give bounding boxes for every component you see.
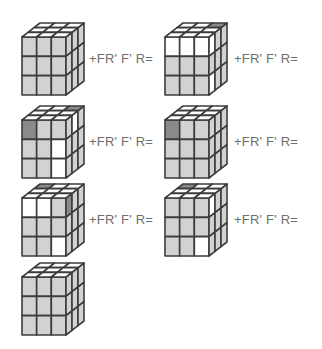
front-sticker	[194, 237, 209, 256]
front-sticker	[194, 217, 209, 236]
cube-svg	[20, 105, 86, 179]
right-sticker	[221, 145, 227, 169]
front-sticker	[165, 37, 180, 56]
right-sticker	[72, 149, 78, 173]
front-sticker	[180, 37, 195, 56]
front-sticker	[37, 316, 52, 335]
front-sticker	[51, 198, 66, 217]
front-sticker	[165, 120, 180, 139]
front-sticker	[37, 37, 52, 56]
front-sticker	[51, 217, 66, 236]
right-sticker	[78, 62, 84, 86]
front-sticker	[22, 120, 37, 139]
front-sticker	[22, 296, 37, 315]
right-sticker	[221, 62, 227, 86]
front-sticker	[37, 120, 52, 139]
front-sticker	[37, 76, 52, 95]
front-sticker	[165, 198, 180, 217]
front-sticker	[165, 237, 180, 256]
right-sticker	[78, 223, 84, 247]
formula-text: +FR' F' R=	[89, 212, 153, 227]
cube-svg	[20, 183, 86, 257]
front-sticker	[37, 159, 52, 178]
front-sticker	[51, 316, 66, 335]
front-sticker	[51, 296, 66, 315]
right-sticker	[215, 227, 221, 251]
front-sticker	[51, 277, 66, 296]
formula-text: +FR' F' R=	[234, 134, 298, 149]
front-sticker	[165, 76, 180, 95]
front-sticker	[37, 56, 52, 75]
cube-diagram	[163, 105, 229, 179]
right-sticker	[209, 71, 215, 95]
front-sticker	[180, 56, 195, 75]
front-sticker	[22, 56, 37, 75]
right-sticker	[72, 306, 78, 330]
right-sticker	[215, 149, 221, 173]
front-sticker	[180, 217, 195, 236]
right-sticker	[215, 66, 221, 90]
front-sticker	[194, 120, 209, 139]
front-sticker	[51, 37, 66, 56]
right-sticker	[72, 227, 78, 251]
front-sticker	[180, 139, 195, 158]
front-sticker	[51, 76, 66, 95]
cube-svg	[163, 105, 229, 179]
front-sticker	[22, 37, 37, 56]
caption: ᐩᐩᐩ ᐩᐩᐩᐩᐩᐩ	[26, 0, 84, 8]
front-sticker	[22, 198, 37, 217]
front-sticker	[165, 56, 180, 75]
right-sticker	[209, 232, 215, 256]
right-sticker	[209, 154, 215, 178]
front-sticker	[37, 217, 52, 236]
front-sticker	[180, 76, 195, 95]
front-sticker	[37, 139, 52, 158]
formula-text: +FR' F' R=	[234, 51, 298, 66]
cube-svg	[20, 262, 86, 336]
front-sticker	[165, 139, 180, 158]
front-sticker	[51, 120, 66, 139]
front-sticker	[22, 277, 37, 296]
front-sticker	[37, 237, 52, 256]
cube-diagram	[20, 183, 86, 257]
cube-diagram	[20, 22, 86, 96]
formula-text: +FR' F' R=	[89, 51, 153, 66]
cube-svg	[163, 183, 229, 257]
front-sticker	[22, 159, 37, 178]
front-sticker	[165, 159, 180, 178]
front-sticker	[165, 217, 180, 236]
front-sticker	[194, 159, 209, 178]
front-sticker	[51, 139, 66, 158]
front-sticker	[194, 76, 209, 95]
cube-svg	[20, 22, 86, 96]
front-sticker	[180, 120, 195, 139]
front-sticker	[180, 198, 195, 217]
front-sticker	[194, 56, 209, 75]
front-sticker	[51, 237, 66, 256]
right-sticker	[78, 302, 84, 326]
right-sticker	[221, 223, 227, 247]
right-sticker	[78, 145, 84, 169]
front-sticker	[22, 237, 37, 256]
front-sticker	[37, 296, 52, 315]
front-sticker	[22, 316, 37, 335]
front-sticker	[194, 139, 209, 158]
front-sticker	[22, 76, 37, 95]
right-sticker	[72, 66, 78, 90]
cube-diagram	[163, 22, 229, 96]
right-sticker	[66, 311, 72, 335]
front-sticker	[180, 159, 195, 178]
front-sticker	[37, 198, 52, 217]
front-sticker	[51, 159, 66, 178]
cube-diagram	[20, 262, 86, 336]
formula-text: +FR' F' R=	[89, 134, 153, 149]
front-sticker	[180, 237, 195, 256]
front-sticker	[22, 217, 37, 236]
cube-diagram	[20, 105, 86, 179]
cube-diagram	[163, 183, 229, 257]
right-sticker	[66, 154, 72, 178]
front-sticker	[37, 277, 52, 296]
front-sticker	[194, 37, 209, 56]
front-sticker	[194, 198, 209, 217]
formula-text: +FR' F' R=	[234, 212, 298, 227]
